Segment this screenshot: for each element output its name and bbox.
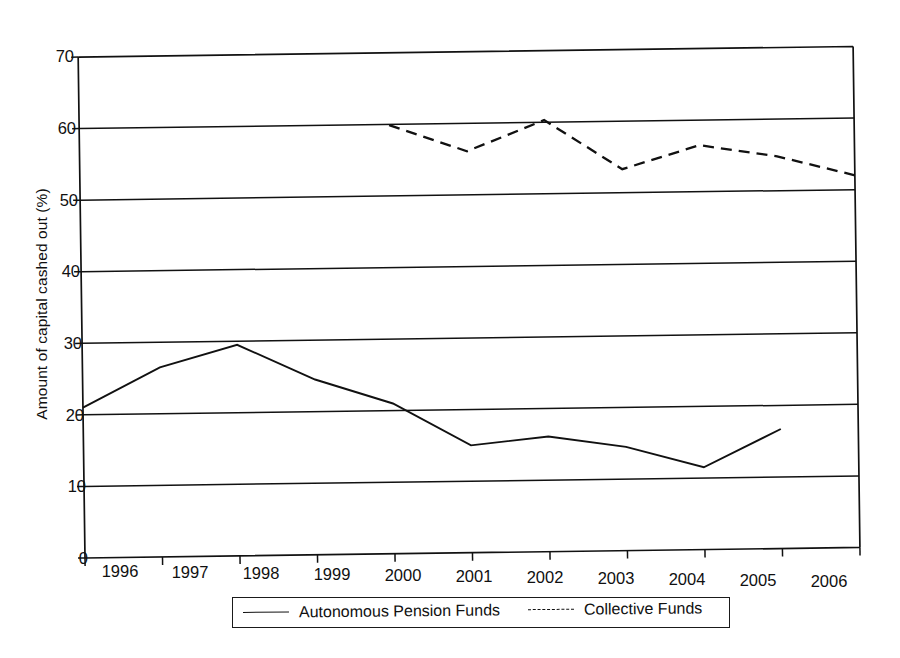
plot-area: [0, 0, 900, 658]
line-chart-figure: Amount of capital cashed out (%) 70 60 5…: [0, 0, 900, 658]
legend-swatch-dashed-line-icon: [528, 609, 574, 610]
legend-label-collective-funds: Collective Funds: [584, 599, 702, 618]
legend-label-autonomous-pension-funds: Autonomous Pension Funds: [299, 601, 500, 621]
gridline-40: [81, 261, 856, 272]
gridline-30: [82, 333, 857, 344]
y-axis-ticks: [71, 57, 85, 558]
legend-entry-autonomous-pension-funds: Autonomous Pension Funds: [243, 601, 500, 621]
gridline-50: [80, 190, 855, 201]
chart-legend: Autonomous Pension Funds Collective Fund…: [232, 597, 730, 628]
gridline-10: [84, 476, 859, 487]
legend-entry-collective-funds: Collective Funds: [528, 599, 702, 619]
gridlines: [79, 118, 859, 486]
series-line-collective-funds: [389, 116, 855, 182]
gridline-60: [79, 118, 854, 129]
gridline-20: [83, 404, 858, 415]
legend-swatch-solid-line-icon: [243, 611, 289, 612]
